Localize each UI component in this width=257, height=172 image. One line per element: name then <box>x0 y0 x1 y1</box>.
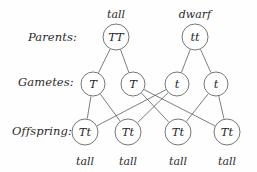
row-label-offspring: Offspring: <box>12 124 72 138</box>
gamete-genotype-label: T <box>129 77 138 91</box>
offspring-genotype-label: Tt <box>122 125 135 139</box>
offspring-genotype-label: Tt <box>79 125 92 139</box>
genetics-cross-diagram: g TTttTTttTtTtTtTt Parents:Gametes:Offsp… <box>0 0 257 172</box>
offspring-phenotype-label-2: tall <box>106 155 150 168</box>
parent-node-p1[interactable]: TT <box>103 24 129 50</box>
offspring-genotype-label: Tt <box>221 125 234 139</box>
parent-genotype-label: tt <box>190 30 200 44</box>
row-label-gametes: Gametes: <box>18 75 74 89</box>
gamete-genotype-label: T <box>89 77 98 91</box>
inheritance-link-g2-o3 <box>142 93 169 122</box>
offspring-node-o1[interactable]: Tt <box>72 119 98 145</box>
offspring-node-o3[interactable]: Tt <box>165 119 191 145</box>
parent-phenotype-label-2: dwarf <box>173 8 217 21</box>
inheritance-link-g1-o2 <box>100 94 120 121</box>
gamete-node-g3[interactable]: t <box>165 72 189 96</box>
gamete-genotype-label: t <box>214 77 219 91</box>
offspring-phenotype-label-3: tall <box>156 155 200 168</box>
inheritance-link-g3-o2 <box>138 93 168 123</box>
inheritance-link-p2-g4 <box>201 49 211 72</box>
offspring-phenotype-label-1: tall <box>63 155 107 168</box>
node-layer: TTttTTttTtTtTtTt <box>72 24 240 145</box>
offspring-node-o2[interactable]: Tt <box>115 119 141 145</box>
offspring-phenotype-label-4: tall <box>205 155 249 168</box>
offspring-node-o4[interactable]: Tt <box>214 119 240 145</box>
inheritance-link-g4-o4 <box>219 96 224 119</box>
gamete-node-g2[interactable]: T <box>121 72 145 96</box>
offspring-genotype-label: Tt <box>172 125 185 139</box>
parent-phenotype-label-1: tall <box>94 8 138 21</box>
parent-genotype-label: TT <box>108 30 125 44</box>
inheritance-link-p1-g2 <box>121 50 129 73</box>
inheritance-link-g1-o1 <box>87 96 91 118</box>
gamete-genotype-label: t <box>175 77 180 91</box>
gamete-node-g1[interactable]: T <box>81 72 105 96</box>
inheritance-link-p1-g1 <box>98 49 110 73</box>
inheritance-link-p2-g3 <box>181 50 190 73</box>
gamete-node-g4[interactable]: t <box>204 72 228 96</box>
parent-node-p2[interactable]: tt <box>182 24 208 50</box>
edge-layer <box>87 49 224 126</box>
row-label-parents: Parents: <box>28 30 77 44</box>
